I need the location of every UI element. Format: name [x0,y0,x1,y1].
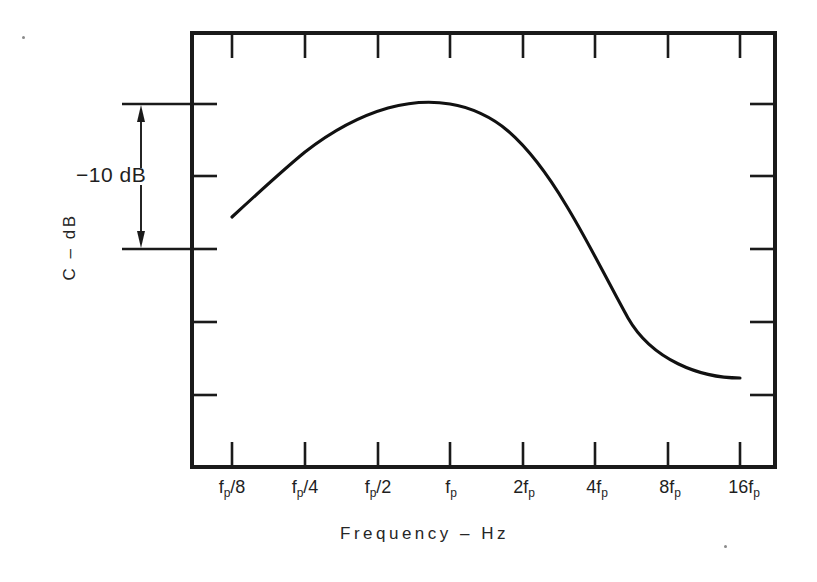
x-tick-label: fp/4 [292,477,319,498]
x-tick-label: 16fp [728,477,760,498]
scan-artifact-speck [22,36,25,39]
x-axis-title: Frequency – Hz [340,524,509,544]
db-scale-label: −10 dB [76,163,146,187]
x-tick-label-post: /2 [376,477,391,497]
x-tick-label-sub: p [450,486,457,500]
x-tick-label-pre: 8f [659,477,674,497]
arrowhead-up-icon [137,105,145,122]
x-tick-label: 4fp [586,477,608,498]
chart-svg [0,0,817,582]
x-tick-label: fp [445,477,457,498]
x-tick-label-sub: p [224,486,231,500]
y-axis-title: C – dB [60,157,80,337]
y-axis-right-ticks [750,104,773,395]
y-axis-left-ticks [194,104,217,395]
x-tick-label-pre: 4f [586,477,601,497]
figure-canvas: −10 dB C – dB fp/8 fp/4 fp/2 fp 2fp 4fp … [0,0,817,582]
x-tick-label-post: /4 [303,477,318,497]
x-tick-label-sub: p [297,486,304,500]
plot-frame [192,33,775,467]
x-tick-label: 8fp [659,477,681,498]
x-tick-label-post: /8 [230,477,245,497]
x-tick-label: fp/8 [219,477,246,498]
plot-border [192,33,775,467]
x-tick-label-pre: 2f [513,477,528,497]
x-tick-label: fp/2 [365,477,392,498]
arrowhead-down-icon [137,231,145,248]
x-axis-bottom-ticks [232,442,740,465]
x-tick-label-sub: p [601,486,608,500]
scan-artifact-speck [724,545,727,548]
x-tick-label-pre: 16f [728,477,753,497]
response-curve [232,102,740,378]
data-curve-group [232,102,740,378]
x-tick-label: 2fp [513,477,535,498]
x-tick-label-sub: p [370,486,377,500]
x-tick-label-sub: p [753,486,760,500]
x-tick-label-sub: p [674,486,681,500]
x-tick-label-sub: p [528,486,535,500]
x-axis-top-ticks [232,35,740,58]
